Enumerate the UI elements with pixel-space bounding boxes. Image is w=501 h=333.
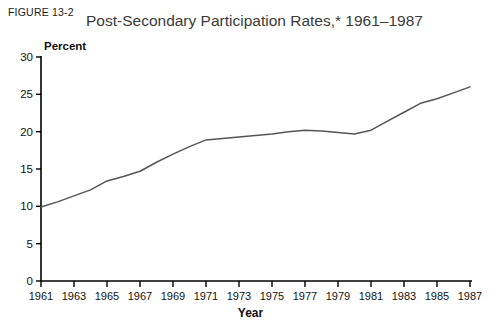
x-tick-label: 1983: [392, 290, 416, 302]
y-tick-label: 0: [27, 275, 33, 287]
y-tick-label: 5: [27, 238, 33, 250]
x-tick-label: 1987: [458, 290, 482, 302]
y-tick-group: 051015202530: [20, 51, 41, 287]
y-tick-label: 25: [20, 88, 33, 100]
line-chart-plot: 051015202530 196119631965196719691971197…: [0, 0, 501, 333]
y-tick-label: 30: [20, 51, 33, 63]
x-tick-label: 1961: [29, 290, 53, 302]
x-tick-label: 1977: [293, 290, 317, 302]
y-tick-label: 10: [20, 200, 33, 212]
data-series-group: [41, 87, 470, 207]
x-tick-label: 1965: [95, 290, 119, 302]
x-tick-label: 1975: [260, 290, 284, 302]
x-tick-group: 1961196319651967196919711973197519771979…: [29, 281, 482, 302]
x-tick-label: 1967: [128, 290, 152, 302]
series-line-post-secondary-rate: [41, 87, 470, 207]
x-tick-label: 1971: [194, 290, 218, 302]
y-axis-group: 051015202530: [20, 51, 41, 287]
x-tick-label: 1969: [161, 290, 185, 302]
y-tick-label: 15: [20, 163, 33, 175]
x-axis-group: 1961196319651967196919711973197519771979…: [29, 281, 482, 302]
x-tick-label: 1963: [62, 290, 86, 302]
x-tick-label: 1985: [425, 290, 449, 302]
x-tick-label: 1979: [326, 290, 350, 302]
x-tick-label: 1981: [359, 290, 383, 302]
x-tick-label: 1973: [227, 290, 251, 302]
y-tick-label: 20: [20, 126, 33, 138]
